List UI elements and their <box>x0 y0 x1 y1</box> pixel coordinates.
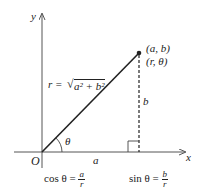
a-side-label: a <box>93 155 99 166</box>
cartesian-point-label: (a, b) <box>146 43 170 54</box>
polar-coordinates-diagram: y x O (a, b) (r, θ) r = √ a² + b² b a θ … <box>0 0 197 192</box>
sin-lhs: sin θ = <box>129 172 159 184</box>
x-axis-label: x <box>186 152 191 163</box>
r-lhs-label: r = <box>48 79 62 90</box>
sin-denominator: r <box>162 180 169 189</box>
theta-label: θ <box>65 136 70 147</box>
sin-fraction: b r <box>162 170 169 189</box>
right-angle-marker <box>128 141 139 152</box>
origin-label: O <box>31 155 40 167</box>
point-dot <box>137 51 142 56</box>
sqrt-icon: √ <box>67 78 74 90</box>
sqrt-body-label: a² + b² <box>74 79 105 92</box>
cos-lhs: cos θ = <box>44 172 76 184</box>
y-axis-label: y <box>31 11 36 22</box>
b-side-label: b <box>143 96 149 107</box>
radius-line <box>42 53 139 152</box>
sin-formula: sin θ = b r <box>129 170 168 189</box>
cos-denominator: r <box>78 180 85 189</box>
cos-formula: cos θ = a r <box>44 170 85 189</box>
angle-arc <box>56 138 62 152</box>
cos-fraction: a r <box>78 170 85 189</box>
polar-point-label: (r, θ) <box>146 56 167 67</box>
